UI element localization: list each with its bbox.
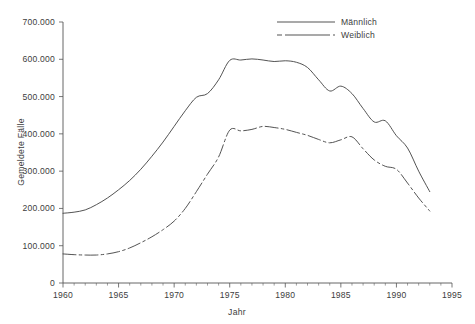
- chart-container: 0100.000200.000300.000400.000500.000600.…: [0, 0, 475, 324]
- y-tick-label: 400.000: [23, 129, 55, 139]
- y-tick-label: 500.000: [23, 92, 55, 102]
- y-tick-label: 700.000: [23, 17, 55, 27]
- x-tick-label: 1970: [164, 290, 184, 300]
- series-group: [63, 59, 430, 255]
- line-chart: 0100.000200.000300.000400.000500.000600.…: [0, 0, 475, 324]
- y-tick-label: 600.000: [23, 54, 55, 64]
- chart-legend: MännlichWeiblich: [277, 17, 377, 40]
- y-tick-label: 0: [50, 278, 55, 288]
- x-tick-label: 1960: [53, 290, 73, 300]
- legend-label-männlich: Männlich: [341, 17, 377, 27]
- y-axis-tick-labels: 0100.000200.000300.000400.000500.000600.…: [23, 17, 55, 288]
- x-tick-label: 1965: [109, 290, 129, 300]
- x-tick-label: 1990: [386, 290, 406, 300]
- x-axis-ticks: [63, 283, 452, 288]
- x-axis-title: Jahr: [228, 307, 246, 317]
- y-axis-title: Gemeldete Fälle: [16, 118, 26, 186]
- x-tick-label: 1985: [331, 290, 351, 300]
- series-line-männlich: [63, 59, 430, 213]
- x-tick-label: 1980: [275, 290, 295, 300]
- y-tick-label: 200.000: [23, 203, 55, 213]
- x-tick-label: 1995: [442, 290, 462, 300]
- legend-label-weiblich: Weiblich: [341, 30, 375, 40]
- y-tick-label: 300.000: [23, 166, 55, 176]
- x-axis-tick-labels: 19601965197019751980198519901995: [53, 290, 462, 300]
- x-tick-label: 1975: [220, 290, 240, 300]
- y-tick-label: 100.000: [23, 241, 55, 251]
- y-axis-ticks: [59, 22, 63, 283]
